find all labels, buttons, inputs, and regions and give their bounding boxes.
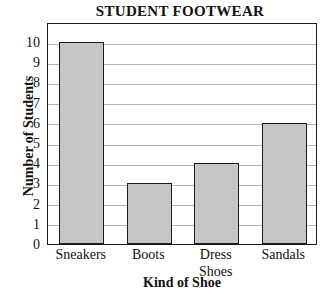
y-tick-label: 9 xyxy=(33,56,40,70)
bar xyxy=(262,123,307,244)
y-tick-label: 5 xyxy=(33,137,40,151)
chart-title: STUDENT FOOTWEAR xyxy=(40,2,320,20)
y-tick-label: 10 xyxy=(26,36,40,50)
x-tick-label-line: Boots xyxy=(115,246,183,263)
x-tick-label-line: Sneakers xyxy=(47,246,115,263)
y-tick-label: 8 xyxy=(33,76,40,90)
bars-group xyxy=(48,24,316,244)
y-tick-label: 1 xyxy=(33,218,40,232)
y-tick-label: 4 xyxy=(33,157,40,171)
x-tick-label: Sandals xyxy=(250,246,318,263)
y-tick-label: 3 xyxy=(33,177,40,191)
bar xyxy=(194,163,239,244)
x-tick-label: Sneakers xyxy=(47,246,115,263)
bar xyxy=(127,183,172,244)
x-tick-label: Boots xyxy=(115,246,183,263)
y-tick-label: 0 xyxy=(33,238,40,252)
x-tick-label-line: Sandals xyxy=(250,246,318,263)
x-tick-label-line: Dress xyxy=(182,246,250,263)
y-tick-label: 2 xyxy=(33,198,40,212)
y-tick-label: 6 xyxy=(33,117,40,131)
y-tick-label: 7 xyxy=(33,97,40,111)
plot-area xyxy=(47,23,317,245)
y-axis-tick-labels: 012345678910 xyxy=(0,23,44,245)
x-axis-title: Kind of Shoe xyxy=(47,275,317,291)
bar xyxy=(59,42,104,244)
